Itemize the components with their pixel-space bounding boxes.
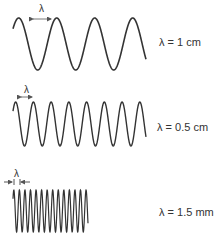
wavelength-label-1: λ = 1 cm	[159, 36, 201, 48]
lambda-marker-2: λ	[24, 84, 29, 95]
wavelength-label-3: λ = 1.5 mm	[159, 206, 214, 218]
wave-0-5cm	[13, 102, 146, 146]
lambda-marker-3: λ	[14, 168, 19, 179]
wave-1-5mm	[13, 190, 88, 232]
wavelength-label-2: λ = 0.5 cm	[157, 121, 208, 133]
wave-1cm	[13, 18, 146, 70]
lambda-arrow-3	[4, 179, 30, 185]
lambda-marker-1: λ	[39, 3, 44, 14]
